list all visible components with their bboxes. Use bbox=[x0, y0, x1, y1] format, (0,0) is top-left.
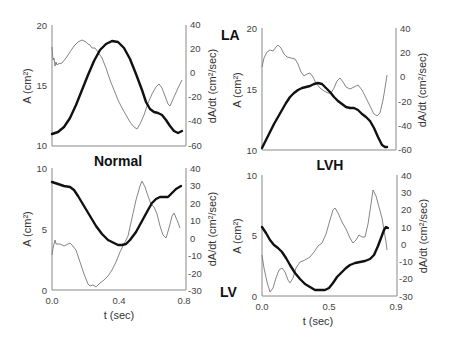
xtick: 0.0 bbox=[45, 295, 58, 306]
ytick: 5 bbox=[252, 230, 257, 241]
axes-frame bbox=[262, 175, 397, 296]
ytick: 20 bbox=[36, 20, 47, 31]
y2tick: 0 bbox=[401, 239, 406, 250]
y2tick: -20 bbox=[398, 96, 412, 107]
xtick: 0.8 bbox=[177, 295, 190, 306]
y2tick: 0 bbox=[400, 71, 405, 82]
y2-axis-label: dA/dt (cm²/sec) bbox=[206, 192, 218, 267]
y2tick: 10 bbox=[401, 222, 412, 233]
ytick: 10 bbox=[36, 163, 47, 174]
y2tick: -20 bbox=[188, 91, 202, 102]
ytick: 20 bbox=[246, 23, 257, 34]
y2tick: 40 bbox=[190, 19, 201, 30]
ytick: 15 bbox=[246, 84, 257, 95]
y2tick: 30 bbox=[401, 187, 412, 198]
y2tick: 20 bbox=[401, 204, 412, 215]
y-axis-label: A (cm²) bbox=[21, 68, 33, 103]
y2tick: -10 bbox=[188, 250, 202, 261]
dadt-line bbox=[262, 190, 387, 292]
y-axis-label: A (cm²) bbox=[231, 72, 243, 107]
ytick: 10 bbox=[246, 170, 257, 181]
ytick: 10 bbox=[246, 145, 257, 156]
x-axis-label: t (sec) bbox=[104, 309, 135, 321]
area-line bbox=[262, 83, 387, 148]
ytick: 5 bbox=[42, 224, 47, 235]
ytick: 15 bbox=[36, 80, 47, 91]
y2tick: 20 bbox=[190, 43, 201, 54]
y2tick: -20 bbox=[188, 268, 202, 279]
axes-frame bbox=[52, 168, 186, 290]
y2tick: 20 bbox=[400, 47, 411, 58]
y2tick: 0 bbox=[190, 67, 195, 78]
panel-lvh-la: 20 15 10 40 20 0 -20 -40 -60 A (cm²) dA/… bbox=[221, 23, 428, 156]
area-line bbox=[52, 182, 181, 245]
panel-lvh-lv: 10 5 0 40 30 20 10 0 -10 -20 -30 0.0 0.5… bbox=[220, 170, 429, 327]
column-title-lvh: LVH bbox=[317, 157, 344, 173]
ytick: 10 bbox=[36, 140, 47, 151]
area-line bbox=[52, 41, 182, 134]
panel-normal-lv: 10 5 0 40 30 20 10 0 -10 -20 -30 0.0 0.4… bbox=[21, 163, 218, 321]
y2tick: 40 bbox=[190, 163, 201, 174]
y2tick: -60 bbox=[188, 140, 202, 151]
y2tick: -10 bbox=[399, 256, 413, 267]
y2tick: -20 bbox=[399, 273, 413, 284]
row-label-lv: LV bbox=[220, 284, 238, 300]
y2-axis-label: dA/dt (cm²/sec) bbox=[417, 199, 429, 274]
column-title-normal: Normal bbox=[94, 153, 142, 169]
y2-axis-label: dA/dt (cm²/sec) bbox=[206, 49, 218, 124]
y2tick: 0 bbox=[190, 233, 195, 244]
y2tick: 30 bbox=[190, 180, 201, 191]
y2tick: 20 bbox=[190, 198, 201, 209]
dadt-line bbox=[262, 45, 387, 116]
y-axis-label: A (cm²) bbox=[231, 218, 243, 253]
y2tick: -40 bbox=[398, 120, 412, 131]
y2tick: -40 bbox=[188, 115, 202, 126]
xtick: 0.5 bbox=[322, 301, 335, 312]
figure-canvas: 20 15 10 40 20 0 -20 -40 -60 A (cm²) dA/… bbox=[0, 0, 449, 341]
y-axis-label: A (cm²) bbox=[21, 211, 33, 246]
panel-normal-la: 20 15 10 40 20 0 -20 -40 -60 A (cm²) dA/… bbox=[21, 19, 218, 151]
y2-axis-label: dA/dt (cm²/sec) bbox=[416, 53, 428, 128]
y2tick: 40 bbox=[401, 170, 412, 181]
x-axis-label: t (sec) bbox=[303, 315, 334, 327]
xtick: 0.0 bbox=[255, 301, 268, 312]
xtick: 0.4 bbox=[112, 295, 125, 306]
y2tick: 40 bbox=[400, 23, 411, 34]
xtick: 0.9 bbox=[389, 301, 402, 312]
y2tick: -60 bbox=[398, 144, 412, 155]
row-label-la: LA bbox=[221, 27, 240, 43]
y2tick: 10 bbox=[190, 215, 201, 226]
